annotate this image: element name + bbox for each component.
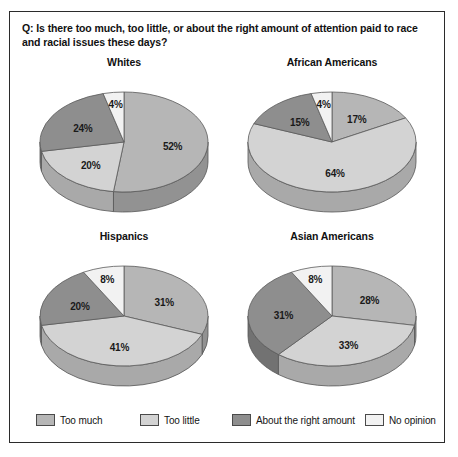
pie-title: Hispanics: [20, 230, 228, 242]
legend-swatch-icon: [365, 414, 384, 426]
pie-slice-label: 31%: [274, 310, 293, 321]
pie-slice-label: 24%: [73, 123, 92, 134]
pie-slice-label: 41%: [110, 341, 129, 352]
survey-question: Q: Is there too much, too little, or abo…: [22, 22, 434, 49]
pie-slice-label: 31%: [155, 296, 174, 307]
pie-slice-label: 8%: [100, 274, 114, 285]
pie-slice-label: 8%: [308, 274, 322, 285]
chart-frame: Q: Is there too much, too little, or abo…: [9, 11, 445, 443]
pie-slice-label: 15%: [290, 117, 309, 128]
pie-slice-label: 33%: [339, 340, 358, 351]
pie-slice-label: 20%: [70, 300, 89, 311]
pie-title: Whites: [20, 56, 228, 68]
pie-panel-hispanics: Hispanics 31%41%20%8%: [20, 230, 228, 405]
legend-swatch-icon: [232, 414, 251, 426]
legend-label: Too much: [60, 415, 103, 426]
legend-label: Too little: [164, 415, 200, 426]
pie-panel-whites: Whites 52%20%24%4%: [20, 56, 228, 231]
legend-item-no-opinion: No opinion: [365, 412, 436, 428]
pie-slice-label: 28%: [360, 294, 379, 305]
pie-chart-hispanics: [20, 246, 228, 404]
legend-label: No opinion: [389, 415, 436, 426]
pie-panel-asian-americans: Asian Americans 28%33%31%8%: [228, 230, 436, 405]
legend-swatch-icon: [140, 414, 159, 426]
pie-slice-label: 20%: [81, 160, 100, 171]
legend-item-too-little: Too little: [140, 412, 200, 428]
pie-chart-whites: [20, 72, 228, 230]
pie-panel-african-americans: African Americans 17%64%15%4%: [228, 56, 436, 231]
pie-title: Asian Americans: [228, 230, 436, 242]
pie-title: African Americans: [228, 56, 436, 68]
pie-slice-label: 4%: [317, 99, 331, 110]
pie-slice-label: 64%: [325, 167, 344, 178]
pie-chart-african-americans: [228, 72, 436, 230]
legend-label: About the right amount: [256, 415, 355, 426]
pie-slice-label: 4%: [109, 99, 123, 110]
legend-item-too-much: Too much: [36, 412, 103, 428]
pie-slice-label: 52%: [163, 140, 182, 151]
legend-swatch-icon: [36, 414, 55, 426]
pie-slice-label: 17%: [347, 114, 366, 125]
legend-item-about-the-right-amount: About the right amount: [232, 412, 355, 428]
pie-chart-asian-americans: [228, 246, 436, 404]
chart-legend: Too much Too little About the right amou…: [10, 412, 446, 432]
